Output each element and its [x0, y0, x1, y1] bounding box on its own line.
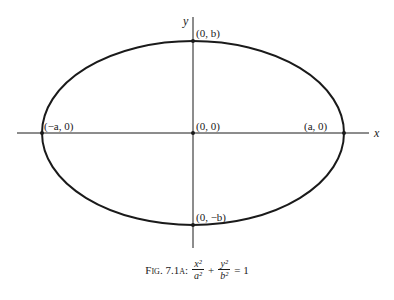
label-origin: (0, 0) [196, 120, 220, 132]
plus-sign: + [208, 264, 214, 276]
caption-prefix: Fig. 7.1a: [145, 264, 188, 276]
point-origin [191, 131, 195, 135]
fraction-y: y² b² [218, 258, 230, 281]
x-axis-label: x [374, 127, 379, 139]
label-top-point: (0, b) [196, 27, 220, 39]
point-top [191, 39, 195, 43]
equals-one: = 1 [234, 264, 248, 276]
point-right [342, 131, 346, 135]
figure-caption: Fig. 7.1a: x² a² + y² b² = 1 [0, 258, 394, 281]
ellipse-diagram [0, 0, 394, 300]
label-right-point: (a, 0) [304, 120, 327, 132]
fraction-x: x² a² [192, 258, 204, 281]
point-bottom [191, 223, 195, 227]
label-left-point: (−a, 0) [44, 120, 73, 132]
y-axis-label: y [183, 15, 188, 27]
label-bottom-point: (0, −b) [196, 211, 226, 223]
